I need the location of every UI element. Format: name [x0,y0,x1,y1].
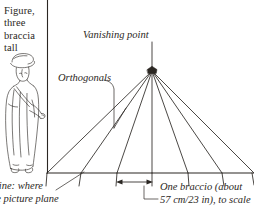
orthogonal-lines [47,71,254,173]
label-vanishing-point: Vanishing point [83,29,149,41]
label-orthogonals: Orthogonals [58,72,111,84]
label-braccio-scale: One braccio (about 57 cm/23 in), to scal… [160,180,251,206]
braccio-caption-leader [144,186,158,199]
standing-figure-illustration [6,54,45,173]
braccio-scale-arrow [116,179,153,184]
label-ground-line: d line: where the picture plane [0,179,59,205]
vanishing-point-marker [147,42,157,73]
orthogonals-leader-line [104,80,126,128]
label-figure-height: Figure, three braccia tall [4,5,35,54]
perspective-diagram-figure: .ink { stroke: #2b2723; fill: none; stro… [0,0,254,208]
